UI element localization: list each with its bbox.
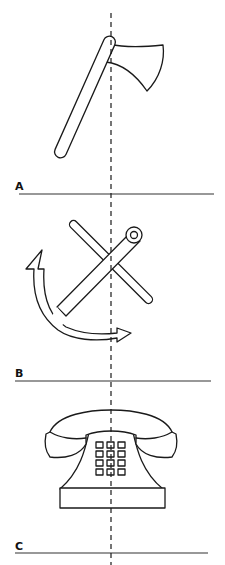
telephone-base: [60, 488, 165, 508]
label-a: A: [15, 181, 24, 192]
axe-icon: [53, 34, 164, 159]
anchor-ring-inner: [131, 232, 138, 239]
axe-handle: [53, 34, 118, 159]
label-b: B: [15, 368, 23, 379]
axe-head: [106, 44, 163, 91]
label-c: C: [15, 541, 23, 552]
anchor-icon: [26, 219, 154, 342]
illustration-canvas: [0, 0, 225, 565]
